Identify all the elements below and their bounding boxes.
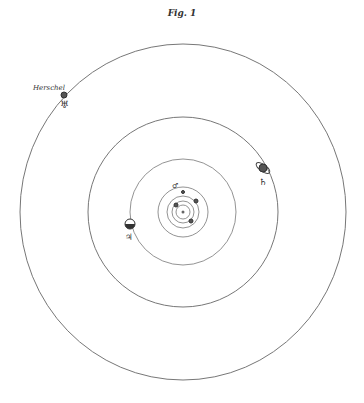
saturn-symbol-icon: ♄ <box>259 177 267 187</box>
planet-jupiter <box>125 219 135 229</box>
planet-herschel <box>61 92 67 98</box>
jupiter-symbol-icon: ♃ <box>125 232 133 242</box>
mars-symbol-icon: ♂ <box>172 182 178 190</box>
herschel-label: Herschel <box>33 84 65 92</box>
planet-mercury <box>189 219 193 223</box>
planet-mars <box>182 191 185 194</box>
sun-icon <box>182 211 185 214</box>
planet-earth <box>194 199 198 203</box>
planet-saturn <box>254 161 271 176</box>
solar-system-diagram <box>0 0 364 403</box>
planet-venus <box>174 203 178 207</box>
herschel-symbol-icon: ♅ <box>60 99 69 110</box>
